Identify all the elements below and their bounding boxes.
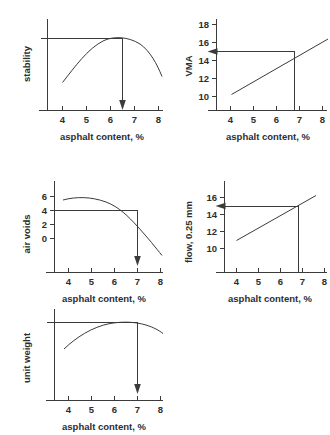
x-tick-marks	[237, 268, 325, 273]
x-tick-label-6: 6	[112, 276, 117, 287]
y-tick-label-6: 6	[42, 191, 47, 202]
x-tick-label-6: 6	[112, 404, 117, 415]
arrow-head-left-vma	[208, 48, 218, 55]
chart-panel-flow: 4 5 6 7 8 10 12 14 16 asphalt content, %…	[178, 172, 330, 307]
x-axis-title: asphalt content, %	[60, 131, 144, 142]
x-axis-title: asphalt content, %	[62, 421, 146, 432]
y-tick-label-4: 4	[42, 205, 48, 216]
arrow-head-down-unit-weight	[134, 384, 141, 394]
y-tick-label-12: 12	[198, 73, 209, 84]
y-tick-label-10: 10	[206, 243, 217, 254]
x-tick-label-7: 7	[297, 114, 302, 125]
y-tick-label-0: 0	[42, 233, 47, 244]
y-tick-label-14: 14	[206, 209, 217, 220]
x-tick-label-6: 6	[108, 114, 113, 125]
arrow-head-left-flow	[216, 203, 226, 210]
y-tick-marks	[50, 197, 55, 239]
x-tick-label-5: 5	[84, 114, 90, 125]
x-tick-label-7: 7	[135, 276, 140, 287]
x-tick-label-4: 4	[66, 276, 72, 287]
y-axis-title: air voids	[21, 214, 32, 253]
y-tick-label-10: 10	[198, 91, 209, 102]
arrow-head-down-stability	[119, 100, 126, 110]
arrow-head-down-air-voids	[134, 256, 141, 266]
x-tick-label-4: 4	[60, 114, 66, 125]
x-tick-label-5: 5	[89, 276, 95, 287]
x-tick-label-8: 8	[158, 404, 163, 415]
x-tick-label-4: 4	[228, 114, 234, 125]
y-axis-title: VMA	[183, 55, 194, 76]
chart-panel-air-voids: 4 5 6 7 8 0 2 4 6 asphalt content, % air…	[16, 172, 168, 307]
unit-weight-curve	[64, 322, 163, 349]
x-tick-label-7: 7	[300, 276, 305, 287]
y-tick-label-2: 2	[42, 219, 47, 230]
x-tick-label-5: 5	[89, 404, 95, 415]
x-tick-label-5: 5	[251, 114, 257, 125]
x-tick-label-6: 6	[274, 114, 279, 125]
x-tick-label-4: 4	[234, 276, 240, 287]
x-tick-marks	[69, 268, 161, 273]
air-voids-curve	[63, 198, 162, 256]
chart-panel-stability: 4 5 6 7 8 asphalt content, % stability	[16, 10, 168, 145]
x-axis-title: asphalt content, %	[226, 131, 310, 142]
y-tick-label-16: 16	[198, 37, 209, 48]
x-tick-label-8: 8	[156, 114, 161, 125]
x-tick-label-4: 4	[66, 404, 72, 415]
x-tick-label-7: 7	[135, 404, 140, 415]
x-tick-label-5: 5	[256, 276, 262, 287]
x-tick-marks	[231, 106, 323, 111]
x-tick-label-7: 7	[132, 114, 137, 125]
y-axis-title: flow, 0.25 mm	[183, 201, 194, 263]
x-tick-label-8: 8	[320, 114, 325, 125]
y-tick-label-14: 14	[198, 55, 209, 66]
x-tick-label-6: 6	[278, 276, 283, 287]
chart-panel-vma: 4 5 6 7 8 10 12 14 16 18 asphalt content…	[178, 10, 330, 145]
y-tick-marks	[212, 25, 217, 97]
chart-panel-unit-weight: 4 5 6 7 8 asphalt content, % unit weight	[16, 300, 168, 435]
y-axis-title: stability	[21, 45, 32, 82]
y-tick-label-18: 18	[198, 19, 209, 30]
x-tick-marks	[63, 106, 159, 111]
flow-line	[237, 196, 317, 241]
y-axis-title: unit weight	[21, 332, 32, 383]
x-tick-label-8: 8	[322, 276, 327, 287]
stability-curve	[63, 38, 163, 83]
vma-line	[232, 39, 329, 95]
y-tick-label-12: 12	[206, 226, 217, 237]
x-tick-marks	[69, 396, 161, 401]
x-tick-label-8: 8	[158, 276, 163, 287]
y-tick-label-16: 16	[206, 192, 217, 203]
x-axis-title: asphalt content, %	[228, 293, 312, 304]
